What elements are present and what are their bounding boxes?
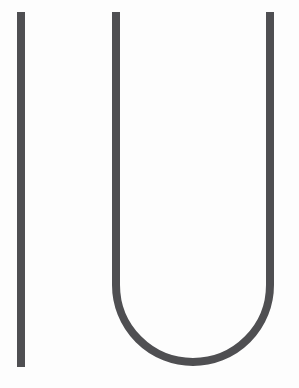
figure-svg xyxy=(0,0,299,388)
figure-canvas: Vertical bar and U-shaped stroke figure … xyxy=(0,0,299,388)
